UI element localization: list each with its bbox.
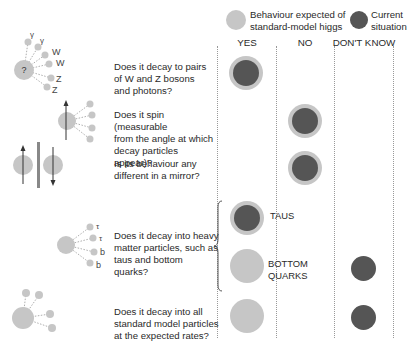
column-divider <box>393 46 394 338</box>
sublabel-bottom-quarks: BOTTOM QUARKS <box>268 258 308 282</box>
current-marker-dont-know <box>351 256 376 281</box>
legend-expected-label: Behaviour expected of standard-model hig… <box>250 9 345 33</box>
expected-current-marker-no <box>288 151 322 185</box>
question-line: Does it decay to pairs <box>114 61 219 73</box>
column-divider <box>334 46 335 338</box>
expected-marker-yes <box>230 299 264 333</box>
column-header-dont-know: DON'T KNOW <box>329 37 399 48</box>
question-line: at the expected rates? <box>114 330 219 342</box>
svg-text:b: b <box>100 247 105 257</box>
svg-text:τ: τ <box>96 222 100 231</box>
legend-current-label: Current situation <box>371 9 407 33</box>
legend-current-swatch <box>350 11 368 29</box>
question-line: Does it decay into all <box>114 306 219 318</box>
mirror-icon <box>13 142 63 188</box>
question-decay-bosons: Does it decay to pairs of W and Z bosons… <box>114 61 219 97</box>
svg-text:b: b <box>96 260 101 270</box>
current-marker <box>233 60 259 86</box>
expected-current-marker-yes <box>229 56 263 90</box>
expected-current-marker-yes <box>230 201 264 235</box>
boson-decay-icon: ? γ γ W W Z Z <box>14 30 65 95</box>
question-line: of W and Z bosons <box>114 73 219 85</box>
sublabel-line: BOTTOM <box>268 258 308 270</box>
spin-icon <box>58 100 96 143</box>
question-line: matter particles, such as <box>114 242 219 254</box>
sublabel-taus: TAUS <box>270 210 294 222</box>
sublabel-line: QUARKS <box>268 270 308 282</box>
column-divider <box>276 46 277 338</box>
all-particles-decay-icon <box>12 289 56 332</box>
question-line: Does it spin (measurable <box>114 109 219 133</box>
illustrations: ? γ γ W W Z Z <box>0 0 112 348</box>
current-marker <box>292 108 318 134</box>
legend-expected-line2: standard-model higgs <box>250 21 345 33</box>
question-all-particles: Does it decay into all standard model pa… <box>114 306 219 342</box>
svg-text:W: W <box>52 47 61 57</box>
question-line: different in a mirror? <box>114 170 219 182</box>
svg-text:W: W <box>56 58 65 68</box>
legend-current-line2: situation <box>371 21 407 33</box>
question-line: and photons? <box>114 85 219 97</box>
svg-text:Z: Z <box>56 74 62 84</box>
current-marker <box>234 205 260 231</box>
heavy-matter-decay-icon: τ τ b b <box>57 222 105 270</box>
question-heavy-matter: Does it decay into heavy matter particle… <box>114 230 219 278</box>
expected-current-marker-no <box>288 104 322 138</box>
legend-expected-swatch <box>226 10 246 30</box>
legend-expected-line1: Behaviour expected of <box>250 9 345 21</box>
current-marker <box>292 155 318 181</box>
question-line: taus and bottom quarks? <box>114 254 219 278</box>
question-line: standard model particles <box>114 318 219 330</box>
brace-icon <box>213 199 225 293</box>
svg-text:τ: τ <box>99 234 103 243</box>
legend-current-line1: Current <box>371 9 407 21</box>
svg-text:Z: Z <box>52 85 58 95</box>
question-line: Is its behaviour any <box>114 158 219 170</box>
svg-text:γ: γ <box>30 30 34 39</box>
svg-text:?: ? <box>21 65 26 75</box>
svg-text:γ: γ <box>40 36 44 45</box>
current-marker-dont-know <box>351 305 376 330</box>
expected-marker-yes <box>230 249 264 283</box>
question-line: from the angle at which <box>114 133 219 145</box>
question-line: Does it decay into heavy <box>114 230 219 242</box>
question-mirror: Is its behaviour any different in a mirr… <box>114 158 219 182</box>
